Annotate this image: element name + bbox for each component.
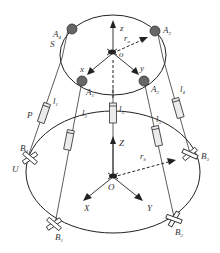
joint-b2 [166,211,182,227]
joint-a4 [67,24,77,34]
label-y-upper: y [139,63,144,73]
label-x-base: X [83,203,90,213]
label-b1: B1 [55,232,63,243]
joint-b1 [46,217,61,230]
label-rb: rb [140,151,147,162]
label-o-base: O [108,182,115,192]
label-l3: l3 [156,114,162,125]
label-z-upper: z [119,23,124,33]
upper-frame [87,20,148,100]
label-o-upper: o [119,49,124,59]
label-a1: A1 [85,87,94,98]
label-s: S [50,39,55,49]
label-z-base: Z [119,138,125,148]
upper-origin-marker [107,49,117,55]
label-ra: ra [124,33,131,44]
label-a2: A2 [150,84,160,95]
base-frame [83,136,176,201]
label-b2: B2 [175,227,184,238]
label-a3: A3 [162,25,172,36]
label-b4: B4 [20,143,29,154]
parallel-mechanism-diagram: A4 S A3 A1 A2 z x y o ra l1 l2 l5 l3 l4 … [0,0,220,253]
joint-a2 [139,76,149,86]
label-x-upper: x [79,64,84,74]
label-y-base: Y [147,203,153,213]
base-origin-marker [108,173,118,179]
label-p: P [26,110,33,120]
label-l1: l1 [53,96,58,107]
joint-a3 [150,26,160,36]
label-l5: l5 [119,104,125,115]
joint-b3 [182,147,198,160]
label-l2: l2 [82,108,88,119]
joint-a1 [77,76,87,86]
label-u: U [12,164,19,174]
label-l4: l4 [180,84,186,95]
label-b3: B3 [201,151,210,162]
